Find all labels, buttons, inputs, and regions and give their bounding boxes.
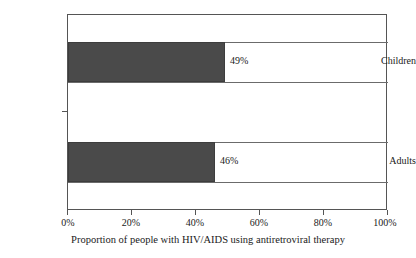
- x-axis-tick-40: [195, 210, 196, 215]
- x-axis-tick-0: [67, 210, 68, 215]
- x-axis-label-20: 20%: [122, 218, 140, 228]
- x-axis-tick-20: [131, 210, 132, 215]
- x-axis-tick-80: [323, 210, 324, 215]
- rule-adults-bottom: [68, 182, 388, 183]
- bar-value-adults: 46%: [220, 156, 238, 166]
- bar-value-children: 49%: [230, 56, 248, 66]
- bar-children[interactable]: [68, 42, 225, 82]
- x-axis-label-100: 100%: [373, 218, 396, 228]
- x-axis-label-60: 60%: [250, 218, 268, 228]
- plot-area: [67, 14, 387, 210]
- bar-chart: 49% 46% Children Adults 0% 20% 40% 60% 8…: [0, 0, 416, 258]
- x-axis-tick-60: [259, 210, 260, 215]
- category-label-adults: Adults: [354, 156, 416, 166]
- x-axis-label-80: 80%: [314, 218, 332, 228]
- x-axis-tick-100: [387, 210, 388, 215]
- rule-children-bottom: [68, 82, 388, 83]
- x-axis-label-0: 0%: [61, 218, 74, 228]
- x-axis-label-40: 40%: [186, 218, 204, 228]
- y-axis-tick: [62, 111, 67, 112]
- x-axis-title: Proportion of people with HIV/AIDS using…: [0, 234, 416, 246]
- category-label-children: Children: [354, 56, 416, 66]
- bar-adults[interactable]: [68, 142, 215, 182]
